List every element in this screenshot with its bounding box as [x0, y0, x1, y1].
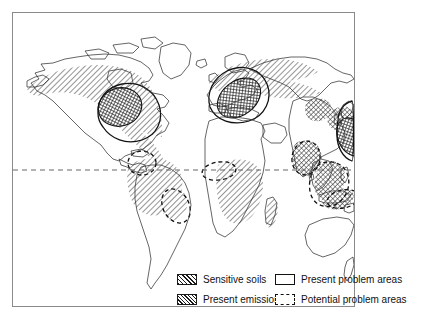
legend-label-present-emissions: Present emissions — [203, 294, 285, 305]
figure-frame: Sensitive soils Present emissions Presen… — [12, 12, 355, 307]
legend-item-potential-problem-areas: Potential problem areas — [275, 291, 407, 308]
legend-item-sensitive-soils: Sensitive soils — [177, 271, 285, 288]
legend-swatch-present-problem-areas-icon — [275, 274, 295, 285]
coast-canada-arctic-3 — [141, 37, 163, 49]
coast-australia — [305, 217, 354, 257]
legend-column-right: Present problem areas Potential problem … — [275, 271, 407, 311]
legend-label-present-problem-areas: Present problem areas — [301, 274, 402, 285]
legend-item-present-problem-areas: Present problem areas — [275, 271, 407, 288]
region-north-china — [305, 99, 331, 122]
legend-label-potential-problem-areas: Potential problem areas — [301, 294, 407, 305]
legend-swatch-potential-problem-areas-icon — [275, 294, 295, 305]
legend-swatch-sensitive-soils-icon — [177, 274, 197, 285]
coast-arabia — [263, 123, 287, 143]
acid-rain-world-map-figure: Sensitive soils Present emissions Presen… — [0, 0, 441, 321]
map-legend: Sensitive soils Present emissions Presen… — [163, 271, 368, 313]
region-north-america-boreal — [27, 65, 162, 137]
legend-item-present-emissions: Present emissions — [177, 291, 285, 308]
coast-greenland — [159, 43, 191, 79]
map-canvas — [13, 13, 354, 306]
legend-column-left: Sensitive soils Present emissions — [177, 271, 285, 311]
coast-iceland — [196, 59, 207, 68]
world-map-svg — [13, 13, 354, 306]
coast-canada-arctic-2 — [113, 43, 139, 53]
legend-label-sensitive-soils: Sensitive soils — [203, 274, 266, 285]
legend-swatch-present-emissions-icon — [177, 294, 197, 305]
